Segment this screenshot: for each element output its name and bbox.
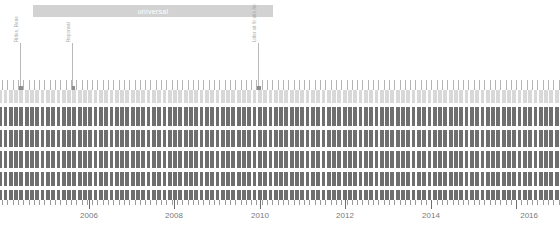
band-notch: [161, 90, 163, 103]
band-notch: [97, 90, 99, 103]
band-notch: [532, 130, 534, 147]
band-notch: [463, 190, 465, 200]
band-notch: [352, 90, 354, 103]
ruler-tick: [378, 80, 379, 90]
band-notch: [166, 190, 168, 200]
band-notch: [431, 190, 433, 200]
band-notch: [119, 90, 121, 103]
band-notch: [44, 151, 46, 168]
band-notch: [177, 190, 179, 200]
ruler-tick: [394, 80, 395, 90]
axis-minor-tick: [384, 200, 385, 205]
band-notch: [55, 172, 57, 186]
band-notch: [246, 107, 248, 126]
ruler-tick: [368, 80, 369, 90]
ruler-tick: [490, 80, 491, 90]
band-notch: [2, 151, 4, 168]
band-notch: [166, 151, 168, 168]
band-notch: [214, 107, 216, 126]
band-notch: [241, 190, 243, 200]
band-notch: [140, 190, 142, 200]
band-notch: [447, 172, 449, 186]
ruler-tick: [55, 80, 56, 90]
band-notch: [188, 151, 190, 168]
band-notch: [373, 190, 375, 200]
band-notch: [177, 151, 179, 168]
band-notch: [347, 190, 349, 200]
band-notch: [76, 90, 78, 103]
band-notch: [405, 90, 407, 103]
axis-minor-tick: [315, 200, 316, 205]
band-notch: [516, 107, 518, 126]
band-notch: [384, 151, 386, 168]
band-notch: [484, 130, 486, 147]
band-notch: [188, 107, 190, 126]
band-notch: [76, 130, 78, 147]
band-notch: [437, 190, 439, 200]
ruler-tick: [13, 80, 14, 90]
band-notch: [458, 190, 460, 200]
band-notch: [283, 172, 285, 186]
band-notch: [119, 172, 121, 186]
band-notch: [166, 90, 168, 103]
band-notch: [267, 130, 269, 147]
axis-minor-tick: [71, 200, 72, 205]
band-notch: [458, 151, 460, 168]
band-notch: [463, 130, 465, 147]
band-notch: [336, 90, 338, 103]
data-band[interactable]: [0, 90, 560, 103]
ruler-tick: [50, 80, 51, 90]
band-notch: [357, 151, 359, 168]
band-notch: [209, 172, 211, 186]
band-notch: [241, 172, 243, 186]
band-notch: [378, 151, 380, 168]
band-notch: [193, 90, 195, 103]
band-notch: [283, 90, 285, 103]
ruler-tick: [230, 80, 231, 90]
band-notch: [341, 172, 343, 186]
band-notch: [161, 107, 163, 126]
annotation-label: Lider sit flr atle Ab: [252, 4, 257, 42]
band-notch: [219, 151, 221, 168]
axis-minor-tick: [325, 200, 326, 205]
axis-minor-tick: [13, 200, 14, 205]
band-notch: [161, 172, 163, 186]
band-notch: [299, 130, 301, 147]
band-notch: [474, 90, 476, 103]
ruler-tick: [7, 80, 8, 90]
band-notch: [283, 151, 285, 168]
band-notch: [341, 107, 343, 126]
band-notch: [490, 151, 492, 168]
axis-minor-tick: [543, 200, 544, 205]
band-notch: [506, 130, 508, 147]
axis-year-label: 2014: [422, 211, 440, 220]
ruler-tick: [548, 80, 549, 90]
chart-canvas: universal Rides, ReneReponsalLider sit f…: [0, 0, 560, 229]
band-notch: [283, 130, 285, 147]
band-notch: [230, 190, 232, 200]
band-notch: [182, 151, 184, 168]
band-notch: [516, 130, 518, 147]
ruler-tick: [66, 80, 67, 90]
ruler-tick: [559, 80, 560, 90]
data-band[interactable]: [0, 172, 560, 186]
band-notch: [548, 107, 550, 126]
axis-minor-tick: [272, 200, 273, 205]
data-band[interactable]: [0, 151, 560, 168]
band-notch: [23, 130, 25, 147]
band-notch: [203, 90, 205, 103]
band-notch: [108, 107, 110, 126]
data-band[interactable]: [0, 190, 560, 200]
band-notch: [362, 107, 364, 126]
band-notch: [325, 90, 327, 103]
band-notch: [283, 190, 285, 200]
band-notch: [124, 107, 126, 126]
band-notch: [87, 172, 89, 186]
data-band[interactable]: [0, 130, 560, 147]
axis-minor-tick: [309, 200, 310, 205]
band-notch: [219, 190, 221, 200]
data-band[interactable]: [0, 107, 560, 126]
band-notch: [97, 190, 99, 200]
ruler-tick: [161, 80, 162, 90]
band-notch: [410, 90, 412, 103]
